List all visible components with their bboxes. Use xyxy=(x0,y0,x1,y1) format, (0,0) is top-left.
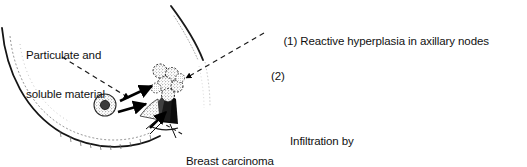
label-breast-carcinoma-necrosis: Breast carcinoma necrosis xyxy=(186,129,274,167)
label-particulate-line2: soluble material xyxy=(26,88,105,101)
annotation-2-number: (2) xyxy=(271,70,285,83)
annotation-2: (2) Infiltration by SECONDARY CARCINOMA … xyxy=(271,70,441,167)
label-particulate-line1: Particulate and xyxy=(26,49,105,62)
label-particulate-material: Particulate and soluble material xyxy=(26,23,105,127)
lymph-node-cluster xyxy=(151,64,185,102)
figure-canvas: Particulate and soluble material Breast … xyxy=(0,0,527,167)
annotation-2-line1: Infiltration by xyxy=(290,135,441,148)
annotation-1-number: (1) xyxy=(283,35,297,47)
label-necrosis-line1: Breast carcinoma xyxy=(186,155,274,167)
annotation-1-text: Reactive hyperplasia in axillary nodes xyxy=(300,35,489,47)
axilla-arm-curve xyxy=(171,6,203,60)
leader-annotation-1 xyxy=(186,33,264,78)
annotation-1: (1) Reactive hyperplasia in axillary nod… xyxy=(271,22,489,61)
